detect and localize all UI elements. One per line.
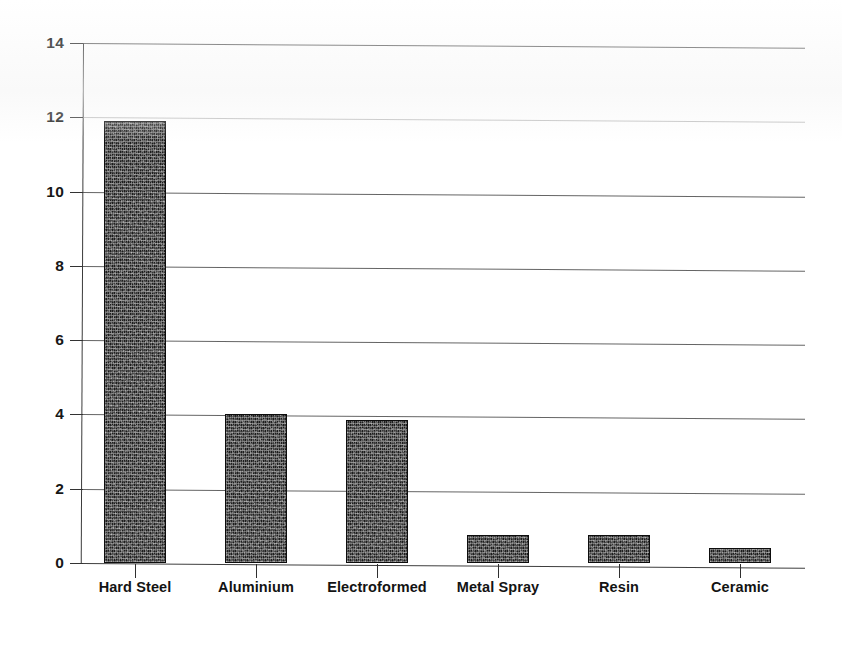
gridline-2 [83,489,805,495]
y-axis-label-14: 14 [22,35,64,51]
bar-ceramic [709,548,771,563]
y-axis-label-8: 8 [22,258,64,274]
x-axis-label-aluminium: Aluminium [218,580,294,595]
x-tick-mark-aluminium [256,564,257,578]
y-tick-mark-8 [70,266,83,267]
gridline-10 [83,192,805,198]
x-tick-mark-metal-spray [498,564,499,578]
x-tick-mark-ceramic [740,564,741,578]
y-tick-mark-14 [70,43,83,44]
x-axis: Hard SteelAluminiumElectroformedMetal Sp… [83,564,805,624]
y-tick-mark-10 [70,192,83,193]
y-tick-mark-4 [70,414,83,415]
x-axis-label-ceramic: Ceramic [711,580,769,595]
gridline-14 [83,43,805,49]
y-axis-label-2: 2 [22,481,64,497]
y-tick-mark-6 [70,340,83,341]
y-axis-label-0: 0 [22,555,64,571]
x-axis-label-metal-spray: Metal Spray [457,580,540,595]
y-tick-mark-2 [70,489,83,490]
gridline-6 [83,340,805,346]
x-tick-mark-resin [619,564,620,578]
bar-electroformed [346,420,408,563]
bar-metal-spray [467,535,529,563]
y-tick-mark-0 [70,563,83,564]
gridline-12 [83,117,805,123]
gridline-8 [83,266,805,272]
x-tick-mark-electroformed [377,564,378,578]
x-axis-label-electroformed: Electroformed [327,580,427,595]
bar-hard-steel [104,121,166,563]
y-axis-label-12: 12 [22,109,64,125]
plot-area [83,43,805,563]
bar-aluminium [225,414,287,563]
y-axis-label-4: 4 [22,406,64,422]
gridline-4 [83,414,805,420]
y-axis-label-10: 10 [22,184,64,200]
y-axis-label-6: 6 [22,332,64,348]
bar-resin [588,535,650,563]
bar-chart: 14121086420 Hard SteelAluminiumElectrofo… [0,0,842,648]
x-axis-label-resin: Resin [599,580,639,595]
y-tick-mark-12 [70,117,83,118]
x-tick-mark-hard-steel [135,564,136,578]
x-axis-label-hard-steel: Hard Steel [99,580,172,595]
